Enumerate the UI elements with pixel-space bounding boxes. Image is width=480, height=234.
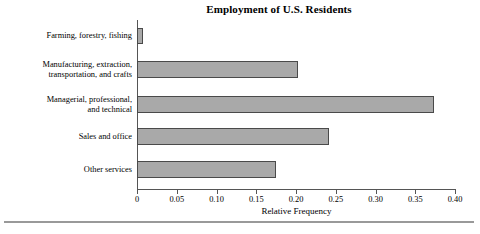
x-axis-tick-mark <box>415 190 416 194</box>
bar <box>137 161 276 178</box>
x-axis-tick-mark <box>296 190 297 194</box>
x-axis-tick-mark <box>177 190 178 194</box>
category-label-line: transportation, and crafts <box>2 70 132 81</box>
category-label-line: Farming, forestry, fishing <box>2 31 132 42</box>
bar <box>137 128 329 145</box>
bar <box>137 96 434 113</box>
category-label-line: Manufacturing, extraction, <box>2 60 132 71</box>
x-axis-tick-label: 0.35 <box>395 195 435 204</box>
category-label-line: and technical <box>2 105 132 116</box>
x-axis-tick-mark <box>137 190 138 194</box>
chart-figure: Employment of U.S. Residents Farming, fo… <box>0 0 480 234</box>
category-label-line: Sales and office <box>2 132 132 143</box>
category-label: Other services <box>2 165 132 176</box>
x-axis-tick-label: 0.20 <box>276 195 316 204</box>
x-axis-title: Relative Frequency <box>137 206 456 216</box>
category-label-line: Other services <box>2 165 132 176</box>
x-axis-tick-label: 0.15 <box>236 195 276 204</box>
bottom-divider <box>4 221 474 223</box>
plot-area: Farming, forestry, fishingManufacturing,… <box>0 0 480 234</box>
x-axis-tick-label: 0.10 <box>197 195 237 204</box>
bar <box>137 28 143 44</box>
x-axis-tick-mark <box>217 190 218 194</box>
x-axis-tick-label: 0.25 <box>316 195 356 204</box>
category-label: Sales and office <box>2 132 132 143</box>
x-axis-tick-label: 0.05 <box>157 195 197 204</box>
x-axis-tick-mark <box>256 190 257 194</box>
x-axis-tick-mark <box>336 190 337 194</box>
category-label: Farming, forestry, fishing <box>2 31 132 42</box>
x-axis-tick-label: 0 <box>117 195 157 204</box>
x-axis-tick-mark <box>455 190 456 194</box>
x-axis-tick-mark <box>376 190 377 194</box>
x-axis-tick-label: 0.30 <box>356 195 396 204</box>
x-axis-tick-label: 0.40 <box>435 195 475 204</box>
category-label: Managerial, professional,and technical <box>2 95 132 116</box>
bar <box>137 61 298 78</box>
category-label: Manufacturing, extraction,transportation… <box>2 60 132 81</box>
category-label-line: Managerial, professional, <box>2 95 132 106</box>
